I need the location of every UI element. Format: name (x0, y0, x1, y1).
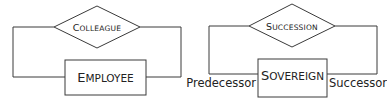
successor-role-label: Successor (329, 76, 387, 90)
succession-diagram: SUCCESSION SOVEREIGN Predecessor Success… (186, 4, 387, 97)
colleague-relationship-label: COLLEAGUE (73, 22, 121, 33)
er-diagram-canvas: COLLEAGUE EMPLOYEE SUCCESSION SOVEREIGN … (0, 0, 387, 98)
left-connector (13, 27, 65, 77)
sovereign-entity-label: SOVEREIGN (261, 68, 324, 83)
successor-connector (327, 26, 377, 74)
employee-entity-label: EMPLOYEE (77, 70, 133, 85)
predecessor-connector (209, 26, 258, 74)
colleague-diagram: COLLEAGUE EMPLOYEE (13, 6, 181, 95)
succession-relationship-label: SUCCESSION (266, 21, 318, 32)
predecessor-role-label: Predecessor (186, 76, 256, 90)
